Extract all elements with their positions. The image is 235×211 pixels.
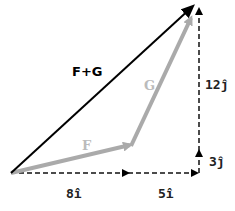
label-8i: 8î [66,187,82,200]
label-f-plus-g: F+G [72,65,102,78]
vector-diagram [0,0,235,211]
label-g: G [144,79,155,92]
vector-g [131,18,191,146]
label-3j: 3ĵ [209,155,225,168]
vector-f-plus-g [11,7,192,173]
label-f: F [82,139,91,152]
label-12j: 12ĵ [205,78,228,91]
label-5i: 5î [158,187,174,200]
vector-f [11,145,130,173]
